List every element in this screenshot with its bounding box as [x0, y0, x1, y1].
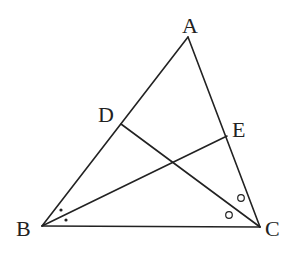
angle-mark-B-lower [64, 218, 67, 221]
triangle-diagram: A B C D E [0, 0, 307, 262]
segment-CA [188, 37, 260, 227]
angle-mark-B-upper [59, 208, 62, 211]
label-A: A [182, 13, 198, 38]
angle-mark-C-upper [238, 195, 245, 202]
label-E: E [232, 117, 245, 142]
segment-BC [42, 226, 260, 227]
label-C: C [265, 216, 280, 241]
angle-mark-C-lower [226, 212, 233, 219]
segment-AB [42, 37, 188, 226]
label-D: D [98, 102, 114, 127]
label-B: B [16, 216, 31, 241]
